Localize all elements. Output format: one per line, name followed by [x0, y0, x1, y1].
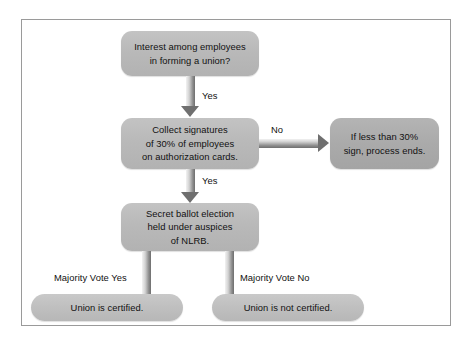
node-process-ends-line-2: sign, process ends. — [344, 144, 426, 157]
node-collect-line-2: of 30% of employees — [142, 137, 238, 150]
diagram-frame: Interest among employees in forming a un… — [21, 19, 451, 326]
node-collect-line-3: on authorization cards. — [142, 150, 238, 163]
arrow-shaft — [186, 169, 195, 192]
node-interest-among-employees: Interest among employees in forming a un… — [121, 31, 259, 76]
node-election-line-2: held under auspices — [146, 220, 234, 233]
node-secret-ballot-election: Secret ballot election held under auspic… — [121, 203, 259, 251]
node-certified-label: Union is certified. — [71, 301, 144, 314]
edge-label-no-collect-to-process-ends: No — [271, 124, 283, 135]
node-collect-line-1: Collect signatures — [142, 123, 238, 136]
node-election-line-3: of NLRB. — [146, 234, 234, 247]
node-collect-signatures: Collect signatures of 30% of employees o… — [121, 118, 259, 169]
arrow-shaft — [142, 251, 151, 295]
node-union-is-not-certified: Union is not certified. — [212, 294, 364, 321]
arrow-shaft — [259, 139, 318, 148]
edge-label-majority-vote-no: Majority Vote No — [240, 272, 310, 283]
arrow-head — [181, 106, 199, 117]
arrow-shaft — [225, 251, 234, 295]
edge-label-majority-vote-yes: Majority Vote Yes — [54, 272, 127, 283]
node-union-is-certified: Union is certified. — [31, 294, 183, 321]
flowchart-canvas: Interest among employees in forming a un… — [0, 0, 473, 347]
node-election-line-1: Secret ballot election — [146, 207, 234, 220]
node-interest-line-2: in forming a union? — [134, 54, 246, 67]
edge-label-yes-collect-to-election: Yes — [202, 175, 217, 186]
arrow-head — [181, 192, 199, 203]
node-interest-line-1: Interest among employees — [134, 40, 246, 53]
node-process-ends: If less than 30% sign, process ends. — [330, 118, 439, 169]
node-process-ends-line-1: If less than 30% — [344, 130, 426, 143]
node-not-certified-label: Union is not certified. — [244, 301, 333, 314]
arrow-shaft — [186, 76, 195, 106]
edge-label-yes-interest-to-collect: Yes — [202, 90, 217, 101]
arrow-head — [318, 134, 329, 152]
